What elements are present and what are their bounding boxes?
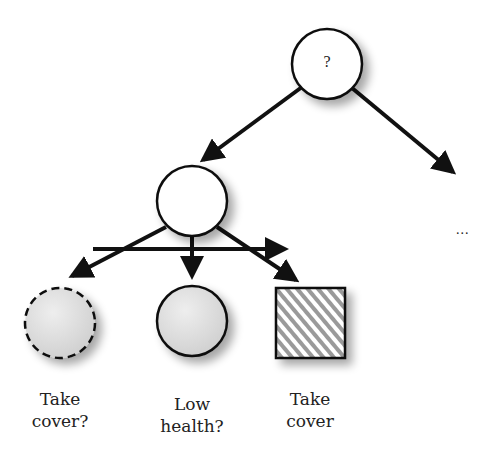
label-line: Low: [137, 393, 247, 415]
label-line: Take: [255, 388, 365, 410]
label-line: health?: [137, 415, 247, 437]
low-health-check-label: Low health?: [137, 393, 247, 437]
edge-sequence-to-take-cover-action: [217, 227, 296, 280]
more-children-ellipsis: ...: [456, 222, 470, 238]
sequence-node: [157, 166, 227, 236]
take-cover-action-label: Take cover: [255, 388, 365, 432]
label-line: cover: [255, 410, 365, 432]
low-health-check-node: [157, 286, 227, 356]
diagram-canvas: ? ... Take cover? Low health? Take cover: [0, 0, 495, 457]
take-cover-check-node: [25, 288, 95, 358]
edge-root-to-sequence: [203, 87, 302, 160]
label-line: Take: [5, 388, 115, 410]
edge-root-to-more: [352, 88, 453, 172]
take-cover-action-node: [276, 288, 345, 358]
take-cover-check-label: Take cover?: [5, 388, 115, 432]
root-node-label: ?: [317, 53, 337, 71]
edge-sequence-to-take-cover-check: [72, 227, 166, 276]
label-line: cover?: [5, 410, 115, 432]
